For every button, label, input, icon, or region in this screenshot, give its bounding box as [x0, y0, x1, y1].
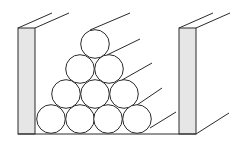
cylinder: [81, 80, 110, 109]
right-wall: [179, 28, 196, 134]
cylinder-depth-line: [137, 88, 162, 105]
cylinders: [37, 30, 152, 134]
right-wall-depth-edge: [196, 13, 230, 28]
cylinder: [81, 30, 110, 59]
cylinder-depth-line: [107, 39, 140, 55]
stacked-cylinders-diagram: [0, 0, 242, 144]
left-wall-depth-edge: [18, 13, 52, 28]
right-wall-depth-edge: [179, 13, 213, 28]
left-wall-depth-edge: [35, 13, 69, 28]
cylinder-depth-line: [150, 112, 176, 128]
cylinder: [66, 105, 95, 134]
cylinder-depth-line: [122, 63, 152, 80]
cylinder: [94, 105, 123, 134]
cylinder: [52, 80, 81, 109]
left-wall: [18, 28, 35, 134]
cylinder: [95, 55, 124, 84]
cylinder: [66, 55, 95, 84]
cylinder-depth-line: [90, 13, 130, 30]
cylinder: [37, 105, 66, 134]
floor-depth-edge: [196, 113, 229, 134]
cylinder: [123, 105, 152, 134]
cylinder: [110, 80, 139, 109]
